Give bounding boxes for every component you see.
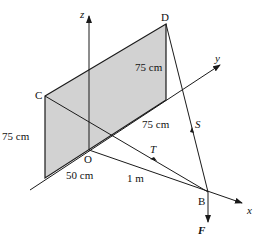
- x-axis: [89, 150, 242, 203]
- dim-plate-height-right: 75 cm: [135, 61, 163, 73]
- point-O-label: O: [84, 153, 92, 165]
- x-axis-label: x: [246, 204, 252, 216]
- z-axis-label: z: [79, 8, 85, 20]
- force-T-label: T: [150, 143, 157, 155]
- diagram-svg: z y x D C O B S T F 75 cm 75 cm 75 cm 50…: [0, 0, 261, 243]
- y-axis-label: y: [214, 52, 220, 64]
- point-B-label: B: [198, 195, 205, 207]
- dim-offset: 50 cm: [66, 169, 94, 181]
- dim-plate-height-left: 75 cm: [2, 130, 30, 142]
- point-C-label: C: [35, 89, 42, 101]
- diagram: z y x D C O B S T F 75 cm 75 cm 75 cm 50…: [0, 0, 261, 243]
- force-S-label: S: [195, 118, 201, 130]
- point-D-label: D: [161, 11, 169, 23]
- dim-OB: 1 m: [127, 172, 144, 184]
- force-F-label: F: [197, 224, 206, 236]
- force-S-arrowhead: [190, 127, 194, 133]
- plate: [45, 24, 166, 178]
- dim-plate-width: 75 cm: [142, 118, 170, 130]
- cable-DB: [166, 24, 208, 192]
